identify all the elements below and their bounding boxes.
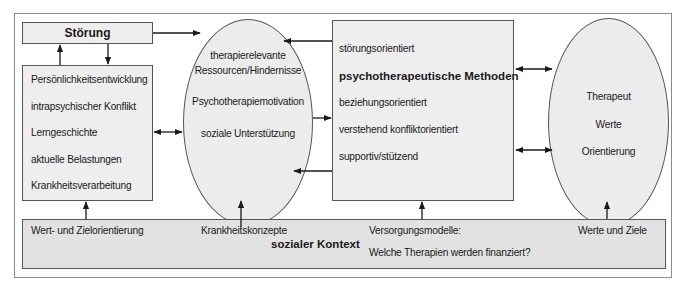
illness-concepts-label: Krankheitskonzepte (201, 225, 287, 236)
stoerung-box: Störung (22, 22, 153, 44)
resources-line-1: therapierelevante (184, 48, 312, 63)
social-context-title: sozialer Kontext (271, 238, 360, 250)
patient-factor-item: Krankheitsverarbeitung (31, 177, 152, 204)
patient-factor-item: aktuelle Belastungen (31, 151, 152, 178)
patient-factors-box: Persönlichkeitsentwicklung intrapsychisc… (22, 65, 153, 201)
orientation-label: Orientierung (549, 146, 668, 157)
method-item: verstehend konfliktorientiert (339, 121, 513, 148)
methods-title: psychotherapeutische Methoden (339, 67, 513, 94)
patient-factor-item: Lerngeschichte (31, 124, 152, 151)
resources-heading: therapierelevante Ressourcen/Hindernisse (184, 48, 312, 78)
stoerung-label: Störung (65, 26, 111, 40)
resources-line-2: Ressourcen/Hindernisse (184, 63, 312, 78)
motivation-label: Psychotherapiemotivation (184, 96, 312, 107)
methods-box: störungsorientiert psychotherapeutische … (332, 20, 514, 201)
method-item: supportiv/stützend (339, 148, 513, 175)
value-goal-orientation-label: Wert- und Zielorientierung (31, 225, 143, 236)
values-label: Werte (549, 119, 668, 130)
therapist-ellipse: Therapeut Werte Orientierung (548, 18, 669, 226)
values-goals-label: Werte und Ziele (578, 225, 647, 236)
social-support-label: soziale Unterstützung (184, 128, 312, 139)
method-item: störungsorientiert (339, 40, 513, 67)
social-context-bar: Wert- und Zielorientierung Krankheitskon… (22, 219, 666, 269)
patient-factor-item: intrapsychischer Konflikt (31, 98, 152, 125)
method-item: beziehungsorientiert (339, 94, 513, 121)
therapist-label: Therapeut (549, 91, 668, 102)
resources-ellipse: therapierelevante Ressourcen/Hindernisse… (183, 19, 313, 226)
financing-question-label: Welche Therapien werden finanziert? (369, 247, 530, 258)
care-models-label: Versorgungsmodelle: (369, 225, 461, 236)
patient-factor-item: Persönlichkeitsentwicklung (31, 71, 152, 98)
